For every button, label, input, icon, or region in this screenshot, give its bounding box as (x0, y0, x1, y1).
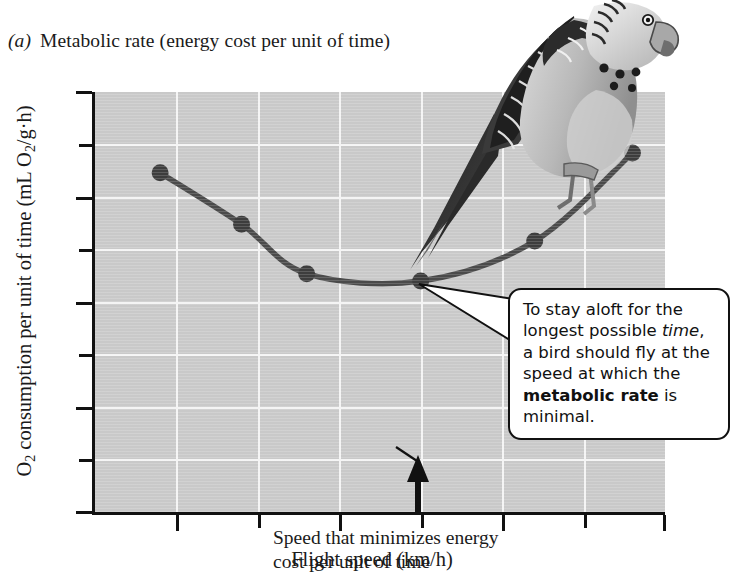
callout-line-2-pre: longest possible (523, 321, 662, 340)
tick-x-20 (176, 515, 179, 531)
y-axis-title-post: /g·h) (13, 105, 35, 145)
metabolic-rate-curve (160, 153, 632, 284)
tick-x-45 (584, 515, 587, 528)
tick-x-40 (502, 515, 505, 531)
tick-x-25 (258, 515, 261, 528)
callout-box: To stay aloft for the longest possible t… (508, 288, 730, 440)
callout-line-1: To stay aloft for the (523, 299, 716, 320)
y-axis-title-o: O (13, 462, 35, 477)
tick-x-50 (663, 515, 666, 531)
y-axis-title-sub-2: 2 (23, 145, 38, 152)
tick-y-10 (76, 407, 92, 410)
callout-line-4: speed at which the (523, 363, 716, 384)
callout-line-5-post: is (659, 386, 677, 405)
tick-y-5 (79, 459, 92, 462)
caption-text: Metabolic rate (energy cost per unit of … (40, 30, 390, 51)
callout-line-2-post: , (699, 321, 704, 340)
callout-line-3: a bird should fly at the (523, 342, 716, 363)
callout-line-2: longest possible time, (523, 320, 716, 341)
callout-emphasis-time: time (662, 321, 699, 340)
data-point (152, 164, 169, 181)
callout-line-5: metabolic rate is (523, 385, 716, 406)
y-axis-title: O2 consumption per unit of time (mL O2/g… (13, 11, 39, 571)
tick-y-0 (76, 511, 92, 514)
tick-y-30 (76, 197, 92, 200)
callout-strong-metabolic-rate: metabolic rate (523, 386, 659, 405)
data-point (298, 265, 315, 282)
speed-annotation-line-1: Speed that minimizes energy (273, 526, 498, 550)
data-point (233, 216, 250, 233)
data-point (624, 144, 641, 161)
tick-y-35 (79, 144, 92, 147)
callout-line-6: minimal. (523, 406, 716, 427)
y-axis-title-sub-1: 2 (23, 455, 38, 462)
data-point (412, 273, 429, 290)
data-point (526, 233, 543, 250)
y-axis-title-mid: consumption per unit of time (mL O (13, 152, 35, 455)
x-axis-title: Flight speed (km/h) (0, 548, 744, 571)
figure-caption: (a)Metabolic rate (energy cost per unit … (8, 30, 390, 52)
figure-metabolic-rate: (a)Metabolic rate (energy cost per unit … (0, 0, 744, 578)
tick-y-20 (76, 302, 92, 305)
tick-y-25 (79, 249, 92, 252)
tick-y-15 (79, 354, 92, 357)
tick-y-40 (76, 91, 92, 94)
